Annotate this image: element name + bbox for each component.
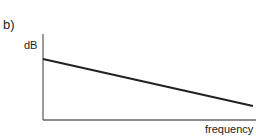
data-line (43, 59, 253, 106)
plot-area (0, 0, 256, 138)
